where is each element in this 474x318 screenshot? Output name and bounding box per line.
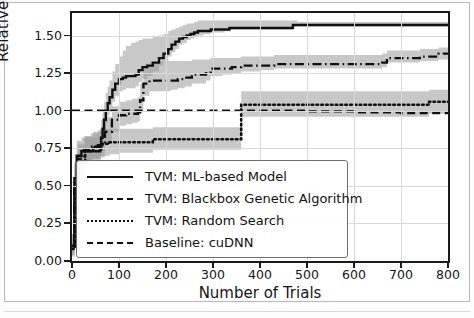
page-rule: [4, 311, 470, 312]
legend-item[interactable]: Baseline: cuDNN: [83, 231, 341, 253]
legend-item-label: TVM: Random Search: [145, 213, 284, 228]
x-tick-label: 700: [376, 267, 426, 282]
x-tick-label: 100: [94, 267, 144, 282]
x-tick-label: 0: [47, 267, 97, 282]
legend: TVM: ML-based ModelTVM: Blackbox Genetic…: [76, 160, 348, 258]
x-tick-label: 300: [188, 267, 238, 282]
y-tick-label: 1.00: [18, 103, 62, 118]
figure-container: Relative Speedup 0.000.250.500.751.001.2…: [0, 0, 474, 318]
legend-item[interactable]: TVM: Random Search: [83, 209, 341, 231]
legend-item[interactable]: TVM: Blackbox Genetic Algorithm: [83, 187, 341, 209]
y-tick-label: 0.75: [18, 140, 62, 155]
gridline-horizontal: [72, 148, 448, 149]
x-tick-label: 200: [141, 267, 191, 282]
x-tick-label: 500: [282, 267, 332, 282]
y-tick-label: 0.50: [18, 178, 62, 193]
gridline-vertical: [448, 13, 449, 261]
gridline-horizontal: [72, 73, 448, 74]
legend-line-swatch-dotted-icon: [87, 214, 133, 226]
legend-item[interactable]: TVM: ML-based Model: [83, 165, 341, 187]
x-tick-label: 800: [423, 267, 473, 282]
y-axis-label: Relative Speedup: [0, 0, 12, 62]
x-tick-label: 400: [235, 267, 285, 282]
y-tick-label: 0.25: [18, 215, 62, 230]
legend-line-swatch-solid-icon: [87, 170, 133, 182]
legend-line-swatch-dashed-icon: [87, 236, 133, 248]
legend-item-label: Baseline: cuDNN: [145, 235, 253, 250]
legend-line-swatch-dashdot-icon: [87, 192, 133, 204]
legend-item-label: TVM: ML-based Model: [145, 169, 287, 184]
x-tick-label: 600: [329, 267, 379, 282]
y-tick-label: 1.25: [18, 65, 62, 80]
y-tick-label: 1.50: [18, 28, 62, 43]
gridline-horizontal: [72, 111, 448, 112]
x-axis-label: Number of Trials: [70, 284, 450, 302]
gridline-horizontal: [72, 36, 448, 37]
y-tick-label: 0.00: [18, 253, 62, 268]
legend-item-label: TVM: Blackbox Genetic Algorithm: [145, 191, 362, 206]
